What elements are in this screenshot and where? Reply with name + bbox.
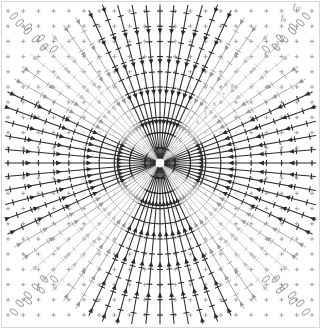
contour-level-label: 2 bbox=[179, 137, 182, 143]
field-label-sub: 10 bbox=[295, 6, 301, 12]
contour-level-label: 9 bbox=[276, 40, 279, 46]
contour-level-label: 4 bbox=[196, 119, 199, 125]
contour-level-label: 8 bbox=[264, 51, 267, 57]
field-label-sub: 9 bbox=[283, 17, 286, 23]
figure-root: f10f91234567889 bbox=[0, 0, 321, 329]
contour-level-label: 5 bbox=[204, 110, 207, 116]
vector-field-plot: f10f91234567889 bbox=[0, 0, 321, 329]
contour-level-label: 1 bbox=[171, 146, 174, 152]
contour-level-label: 8 bbox=[231, 83, 234, 89]
contour-level-label: 3 bbox=[187, 128, 190, 134]
contour-level-label: 6 bbox=[213, 101, 216, 107]
contour-level-label: 7 bbox=[222, 92, 225, 98]
